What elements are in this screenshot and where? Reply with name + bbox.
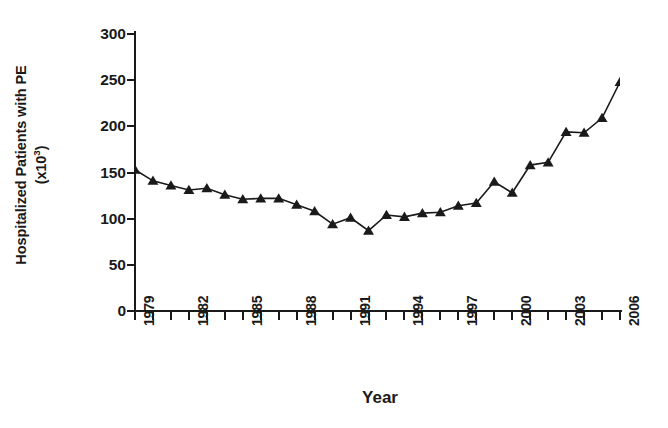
x-axis-tick-mark bbox=[565, 312, 567, 320]
x-axis-tick-mark bbox=[224, 312, 226, 320]
data-point-marker bbox=[597, 113, 608, 122]
x-axis-tick-mark bbox=[278, 312, 280, 320]
x-axis-tick-mark bbox=[296, 312, 298, 320]
y-axis-title-exponent: 3 bbox=[31, 150, 42, 155]
x-axis-tick-label: 1997 bbox=[451, 326, 465, 382]
y-axis-tick-label: 100 bbox=[80, 211, 126, 227]
x-axis-title: Year bbox=[0, 388, 668, 408]
plot-area bbox=[135, 34, 620, 311]
y-axis-tick-mark bbox=[127, 79, 135, 81]
x-axis-tick-mark bbox=[403, 312, 405, 320]
x-axis-tick-mark bbox=[619, 312, 621, 320]
y-axis-tick-labels: 300250200150100500 bbox=[66, 0, 126, 428]
x-axis-tick-mark bbox=[493, 312, 495, 320]
y-axis-title-line2: (x103) bbox=[31, 65, 50, 264]
y-axis-tick-label: 200 bbox=[80, 118, 126, 134]
x-axis-tick-label: 2000 bbox=[505, 326, 519, 382]
x-axis-tick-label: 1988 bbox=[290, 326, 304, 382]
y-axis-title-line2-suffix: ) bbox=[32, 146, 48, 151]
y-axis-tick-mark bbox=[127, 125, 135, 127]
y-axis-title-line2-prefix: (x10 bbox=[32, 156, 48, 185]
y-axis-tick-mark bbox=[127, 33, 135, 35]
x-axis-tick-mark bbox=[350, 312, 352, 320]
x-axis-tick-mark bbox=[511, 312, 513, 320]
data-point-marker bbox=[543, 157, 554, 166]
x-axis-tick-label: 1982 bbox=[182, 326, 196, 382]
data-point-marker bbox=[381, 210, 392, 219]
data-markers bbox=[135, 77, 620, 235]
x-axis-tick-label: 2006 bbox=[613, 326, 627, 382]
y-axis-tick-label: 250 bbox=[80, 72, 126, 88]
data-point-marker bbox=[201, 183, 212, 192]
y-axis-tick-label: 300 bbox=[80, 26, 126, 42]
y-axis-tick-mark bbox=[127, 264, 135, 266]
x-axis-tick-mark bbox=[439, 312, 441, 320]
y-axis-title-line1: Hospitalized Patients with PE bbox=[13, 65, 29, 264]
x-axis-tick-label: 1994 bbox=[397, 326, 411, 382]
x-axis-tick-mark bbox=[242, 312, 244, 320]
data-point-marker bbox=[345, 213, 356, 222]
x-axis-tick-label: 1991 bbox=[344, 326, 358, 382]
x-axis-tick-mark bbox=[385, 312, 387, 320]
x-axis-tick-mark bbox=[170, 312, 172, 320]
y-axis-tick-label: 50 bbox=[80, 257, 126, 273]
x-axis-tick-mark bbox=[547, 312, 549, 320]
x-axis-tick-mark bbox=[601, 312, 603, 320]
y-axis-title: Hospitalized Patients with PE (x103) bbox=[0, 0, 62, 330]
chart-figure: Hospitalized Patients with PE (x103) 300… bbox=[0, 0, 668, 428]
x-axis-title-text: Year bbox=[362, 388, 398, 407]
x-axis-tick-mark bbox=[188, 312, 190, 320]
x-axis-tick-label: 1979 bbox=[128, 326, 142, 382]
x-axis-tick-label: 1985 bbox=[236, 326, 250, 382]
y-axis-tick-mark bbox=[127, 218, 135, 220]
data-point-marker bbox=[148, 176, 159, 185]
x-axis-tick-mark bbox=[134, 312, 136, 320]
data-point-marker bbox=[507, 188, 518, 197]
x-axis-tick-mark bbox=[332, 312, 334, 320]
y-axis-tick-label: 150 bbox=[80, 165, 126, 181]
x-axis-tick-label: 2003 bbox=[559, 326, 573, 382]
y-axis-tick-mark bbox=[127, 172, 135, 174]
data-point-marker bbox=[615, 77, 620, 86]
data-point-marker bbox=[489, 177, 500, 186]
y-axis-tick-label: 0 bbox=[80, 303, 126, 319]
x-axis-tick-mark bbox=[457, 312, 459, 320]
data-line bbox=[135, 82, 620, 231]
